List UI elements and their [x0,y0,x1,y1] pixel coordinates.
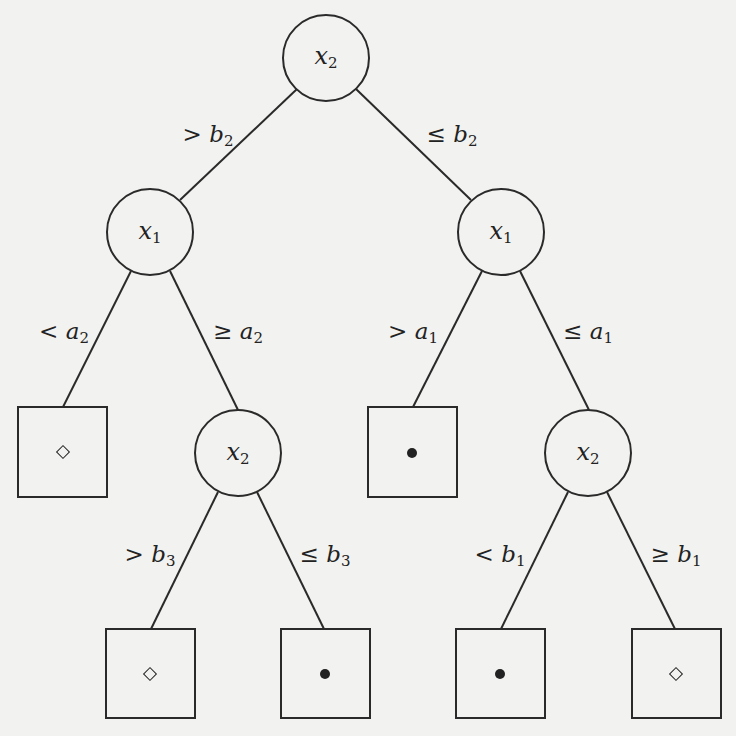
dot-icon [495,669,505,679]
dot-icon [407,448,417,458]
edge-label-rx2-left: < b1 [475,543,526,569]
tree-canvas [0,0,736,736]
edge-label-rx1-left: > a1 [388,320,438,346]
node-label-right-x2: x2 [576,440,599,467]
node-label-right-x1: x1 [489,219,512,246]
dot-icon [320,669,330,679]
edge-label-lx2-right: ≤ b3 [300,543,351,569]
node-label-root: x2 [314,44,337,71]
node-label-left-x2: x2 [226,440,249,467]
edge-label-lx1-left: < a2 [39,320,89,346]
edge-label-lx2-left: > b3 [125,543,176,569]
edge-label-root-left: > b2 [183,123,234,149]
node-label-left-x1: x1 [138,219,161,246]
edge-label-lx1-right: ≥ a2 [213,320,263,346]
edge-label-rx2-right: ≥ b1 [651,543,702,569]
edge-label-root-right: ≤ b2 [427,123,478,149]
edge-label-rx1-right: ≤ a1 [563,320,613,346]
